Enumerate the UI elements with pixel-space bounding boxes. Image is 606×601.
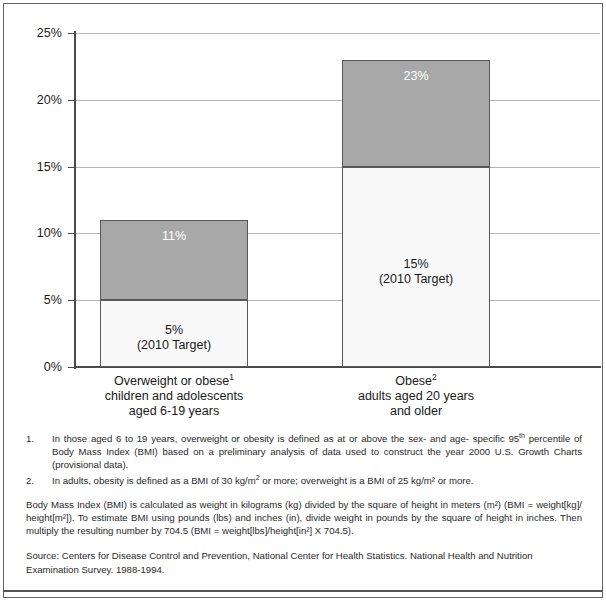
bar-obese-adults[interactable]: 23% 15% (2010 Target)	[342, 60, 490, 367]
bar-overweight-children[interactable]: 11% 5% (2010 Target)	[100, 220, 248, 367]
y-tick-mark-25	[68, 33, 75, 34]
bar-segment-target-children[interactable]: 5% (2010 Target)	[100, 300, 248, 367]
gridline-15	[74, 167, 600, 168]
y-tick-mark-5	[68, 300, 75, 301]
notes-region: 1. In those aged 6 to 19 years, overweig…	[26, 432, 582, 576]
y-tick-label-15: 15%	[16, 161, 62, 174]
footnote-2: 2. In adults, obesity is defined as a BM…	[26, 474, 582, 487]
category-line-2-children: children and adolescents	[80, 389, 268, 404]
y-tick-mark-15	[68, 167, 75, 168]
footnote-2-text: In adults, obesity is defined as a BMI o…	[52, 474, 582, 487]
category-label-adults: Obese2 adults aged 20 years and older	[322, 374, 510, 419]
gridline-20	[74, 100, 600, 101]
bar-target-note-adults: (2010 Target)	[379, 272, 453, 287]
y-tick-mark-10	[68, 233, 75, 234]
category-label-children: Overweight or obese1 children and adoles…	[80, 374, 268, 419]
footnote-1: 1. In those aged 6 to 19 years, overweig…	[26, 432, 582, 472]
category-line-1-children: Overweight or obese1	[80, 374, 268, 389]
category-line-3-adults: and older	[322, 404, 510, 419]
y-tick-label-0: 0%	[16, 361, 62, 374]
bar-target-note-children: (2010 Target)	[137, 338, 211, 353]
bar-value-label-23: 23%	[403, 69, 428, 83]
y-axis-line	[74, 31, 76, 369]
bar-target-label-5: 5%	[165, 323, 183, 338]
category-line-3-children: aged 6-19 years	[80, 404, 268, 419]
bar-value-label-11: 11%	[162, 229, 186, 243]
footnote-ref-1: 1	[229, 372, 234, 382]
footnote-1-text-part1: In those aged 6 to 19 years, overweight …	[52, 433, 519, 444]
footnote-2-text-part1: In adults, obesity is defined as a BMI o…	[52, 475, 256, 486]
y-tick-label-25: 25%	[16, 27, 62, 40]
footnote-2-number: 2.	[26, 474, 52, 487]
footnote-1-text: In those aged 6 to 19 years, overweight …	[52, 432, 582, 472]
bar-segment-target-adults[interactable]: 15% (2010 Target)	[342, 167, 490, 367]
y-tick-mark-20	[68, 100, 75, 101]
category-line-1-adults: Obese2	[322, 374, 510, 389]
source-line: Source: Centers for Disease Control and …	[26, 549, 582, 575]
bar-target-label-15: 15%	[403, 257, 428, 272]
figure-page: 25% 20% 15% 10% 5% 0% 11% 5% (2010 Targe…	[0, 0, 606, 601]
bmi-explanation-paragraph: Body Mass Index (BMI) is calculated as w…	[26, 498, 582, 538]
footnote-2-text-part2: or more; overweight is a BMI of 25 kg/m²…	[260, 475, 474, 486]
bar-segment-current-children[interactable]: 11%	[100, 220, 248, 300]
footnote-1-number: 1.	[26, 432, 52, 472]
bar-segment-current-adults[interactable]: 23%	[342, 60, 490, 167]
y-tick-label-10: 10%	[16, 227, 62, 240]
gridline-25	[74, 33, 600, 34]
y-tick-label-20: 20%	[16, 94, 62, 107]
footnote-ref-2: 2	[432, 372, 437, 382]
y-tick-label-5: 5%	[16, 294, 62, 307]
y-tick-mark-0	[68, 367, 75, 368]
bottom-rule	[3, 590, 603, 592]
category-line-2-adults: adults aged 20 years	[322, 389, 510, 404]
chart-region: 25% 20% 15% 10% 5% 0% 11% 5% (2010 Targe…	[0, 0, 606, 430]
